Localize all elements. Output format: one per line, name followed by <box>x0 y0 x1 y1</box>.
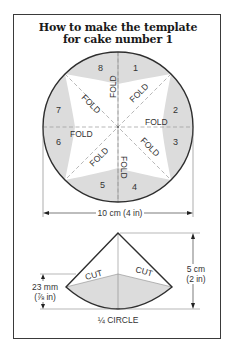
arrow-up-icon <box>191 233 195 239</box>
arrow-right-icon <box>187 211 193 215</box>
segment-6: 6 <box>56 137 61 147</box>
segment-5: 5 <box>100 180 105 190</box>
template-diagram: 1 2 3 4 5 6 7 8 FOLD FOLD FOLD FOLD FOLD… <box>0 0 236 353</box>
arrow-down-icon <box>191 303 195 309</box>
segment-8: 8 <box>98 63 103 73</box>
arrow-left-icon <box>43 211 49 215</box>
arrow-up-small-icon <box>41 274 45 279</box>
segment-3: 3 <box>173 137 178 147</box>
height-label-2: (2 in) <box>186 274 206 284</box>
segment-7: 7 <box>56 105 61 115</box>
circle-template: 1 2 3 4 5 6 7 8 FOLD FOLD FOLD FOLD FOLD… <box>43 52 193 218</box>
segment-2: 2 <box>173 105 178 115</box>
arrow-down-small-icon <box>41 304 45 309</box>
center-point <box>117 126 119 128</box>
height-label-1: 5 cm <box>187 264 205 274</box>
quarter-caption: ¼ CIRCLE <box>98 315 139 325</box>
quarter-shaded-area <box>66 274 172 309</box>
segment-4: 4 <box>132 182 137 192</box>
fold-label-right: FOLD <box>145 117 168 127</box>
fold-label-bottom: FOLD <box>119 156 129 179</box>
diameter-label: 10 cm (4 in) <box>98 208 143 218</box>
segment-1: 1 <box>133 63 138 73</box>
fold-label-left: FOLD <box>70 129 93 139</box>
inner-label-2: (⅞ in) <box>34 292 56 302</box>
fold-label-top: FOLD <box>108 75 118 98</box>
inner-label-1: 23 mm <box>32 282 58 292</box>
quarter-circle-template: CUT CUT 5 cm (2 in) 23 mm (⅞ in) ¼ CIRCL… <box>32 233 206 325</box>
